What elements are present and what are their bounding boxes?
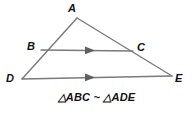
similarity-caption: △ABC ~ △ADE — [0, 91, 193, 104]
vertex-label-c: C — [137, 42, 145, 53]
vertex-label-e: E — [175, 73, 182, 84]
vertex-label-b: B — [27, 41, 35, 52]
vertex-label-a: A — [68, 3, 76, 14]
arrowhead-bc-icon — [85, 47, 95, 55]
arrowhead-de-icon — [85, 74, 95, 82]
segment-AE — [77, 18, 172, 76]
similar-triangles-figure: A B C D E △ABC ~ △ADE — [0, 0, 193, 114]
segment-DE — [22, 76, 172, 79]
vertex-label-d: D — [6, 73, 14, 84]
